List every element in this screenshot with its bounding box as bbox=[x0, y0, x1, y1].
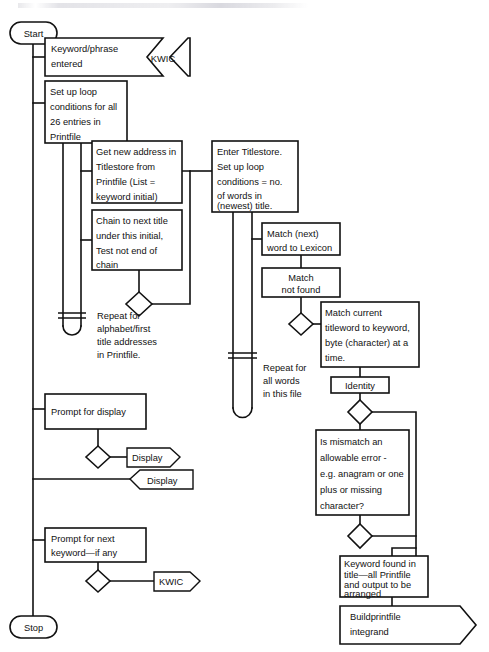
prompt-next-keyword-line1: Prompt for next bbox=[51, 534, 115, 544]
repeat-all-words-line2: all words bbox=[263, 376, 300, 386]
annotation-repeat-alphabet: Repeat for alphabet/first title addresse… bbox=[97, 311, 157, 360]
decision-allowable-error bbox=[348, 524, 372, 548]
keyword-found-line2: title—all Printfile bbox=[344, 570, 411, 580]
chain-next-title-line3: Test not end of bbox=[96, 246, 157, 256]
enter-titlestore-line4: of words in bbox=[217, 191, 262, 201]
match-current-line4: time. bbox=[325, 353, 345, 363]
chain-next-title-line1: Chain to next title bbox=[96, 216, 168, 226]
process-keyword-found: Keyword found in title—all Printfile and… bbox=[340, 556, 428, 599]
flowchart-canvas: Start Keyword/phrase entered KWIC Set up… bbox=[0, 0, 489, 652]
match-current-line2: titleword to keyword, bbox=[325, 323, 410, 333]
match-current-line3: byte (character) at a bbox=[325, 338, 409, 348]
process-prompt-next-keyword: Prompt for next keyword—if any bbox=[45, 528, 146, 562]
decision-another-keyword bbox=[86, 570, 110, 592]
repeat-alphabet-line4: in Printfile. bbox=[97, 350, 140, 360]
setup-loop-line3: 26 entries in bbox=[50, 117, 101, 127]
match-not-found-line2: not found bbox=[282, 285, 321, 295]
input-kwic-label: KWIC bbox=[151, 54, 176, 64]
flowchart-svg: Start Keyword/phrase entered KWIC Set up… bbox=[0, 0, 489, 652]
repeat-alphabet-line3: title addresses bbox=[97, 337, 157, 347]
connector-titlestore-loop-bottom bbox=[233, 408, 252, 418]
setup-loop-line1: Set up loop bbox=[50, 87, 97, 97]
match-next-word-line1: Match (next) bbox=[267, 229, 319, 239]
enter-titlestore-line5: (newest) title. bbox=[217, 201, 272, 211]
is-mismatch-line1: Is mismatch an bbox=[320, 437, 383, 447]
get-new-address-line1: Get new address in bbox=[96, 147, 176, 157]
display-out-label: Display bbox=[132, 453, 163, 463]
annotation-repeat-all-words: Repeat for all words in this file bbox=[263, 363, 306, 399]
output-kwic-loop: KWIC bbox=[154, 572, 200, 591]
keyword-found-line1: Keyword found in bbox=[344, 559, 416, 569]
repeat-all-words-line1: Repeat for bbox=[263, 363, 306, 373]
setup-loop-line2: conditions for all bbox=[50, 102, 117, 112]
process-is-mismatch-allowable: Is mismatch an allowable error - e.g. an… bbox=[316, 430, 409, 515]
keyword-found-line4: arranged bbox=[344, 589, 381, 599]
process-prompt-display: Prompt for display bbox=[45, 394, 146, 429]
is-mismatch-line4: plus or missing bbox=[320, 485, 382, 495]
process-chain-next-title: Chain to next title under this initial, … bbox=[92, 210, 182, 270]
terminator-start-label: Start bbox=[24, 29, 44, 39]
buildprintfile-line1: Buildprintfile bbox=[350, 612, 401, 622]
process-match-current-titleword: Match current titleword to keyword, byte… bbox=[321, 302, 419, 367]
input-display: Display bbox=[130, 470, 193, 489]
enter-titlestore-line2: Set up loop bbox=[217, 162, 264, 172]
keyword-entered-line2: entered bbox=[51, 59, 83, 69]
kwic-loop-label: KWIC bbox=[159, 577, 184, 587]
decision-display-wanted bbox=[86, 446, 110, 468]
process-match-next-word: Match (next) word to Lexicon bbox=[262, 223, 340, 255]
terminator-stop-label: Stop bbox=[24, 623, 43, 633]
repeat-alphabet-line1: Repeat for bbox=[97, 311, 140, 321]
connector-loop-tube-bottom bbox=[63, 326, 81, 335]
terminator-stop: Stop bbox=[10, 616, 57, 638]
decision-identity bbox=[348, 400, 372, 424]
is-mismatch-line5: character? bbox=[320, 501, 364, 511]
display-in-label: Display bbox=[147, 476, 178, 486]
get-new-address-line2: Titlestore from bbox=[96, 162, 155, 172]
decision-match-found bbox=[289, 313, 313, 335]
output-display: Display bbox=[127, 448, 180, 467]
setup-loop-line4: Printfile bbox=[50, 132, 81, 142]
chain-next-title-line2: under this initial, bbox=[96, 231, 163, 241]
enter-titlestore-line3: conditions = no. bbox=[217, 177, 282, 187]
identity-label: Identity bbox=[345, 381, 375, 391]
keyword-entered-line1: Keyword/phrase bbox=[51, 44, 118, 54]
repeat-alphabet-line2: alphabet/first bbox=[97, 324, 151, 334]
match-next-word-line2: word to Lexicon bbox=[266, 243, 332, 253]
prompt-display-label: Prompt for display bbox=[51, 407, 126, 417]
match-not-found-line1: Match bbox=[288, 273, 313, 283]
output-buildprintfile: Buildprintfile integrand bbox=[340, 606, 476, 644]
is-mismatch-line2: allowable error - bbox=[320, 453, 387, 463]
process-get-new-address: Get new address in Titlestore from Print… bbox=[92, 141, 182, 203]
process-match-not-found: Match not found bbox=[262, 268, 340, 297]
get-new-address-line4: keyword initial) bbox=[96, 192, 157, 202]
enter-titlestore-line1: Enter Titlestore. bbox=[217, 147, 282, 157]
chain-next-title-line4: chain bbox=[96, 260, 118, 270]
is-mismatch-line3: e.g. anagram or one bbox=[320, 469, 404, 479]
process-keyword-entered: Keyword/phrase entered bbox=[45, 38, 163, 76]
match-current-line1: Match current bbox=[325, 308, 382, 318]
process-setup-loop-printfile: Set up loop conditions for all 26 entrie… bbox=[45, 81, 127, 143]
process-enter-titlestore: Enter Titlestore. Set up loop conditions… bbox=[212, 141, 298, 212]
buildprintfile-line2: integrand bbox=[350, 627, 389, 637]
process-identity: Identity bbox=[331, 377, 389, 393]
repeat-all-words-line3: in this file bbox=[263, 389, 302, 399]
connector-rail-to-keyword-found bbox=[392, 548, 416, 556]
prompt-next-keyword-line2: keyword—if any bbox=[51, 548, 117, 558]
get-new-address-line3: Printfile (List = bbox=[96, 177, 155, 187]
